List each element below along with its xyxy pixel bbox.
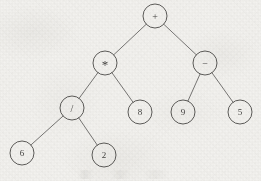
operand-label: 9	[181, 107, 186, 117]
operand-label: 6	[20, 148, 25, 158]
tree-edge	[212, 73, 233, 102]
tree-node-minus[interactable]: −	[193, 51, 217, 75]
tree-node-multiply[interactable]: *	[93, 51, 117, 75]
tree-node-2[interactable]: 2	[92, 143, 116, 167]
tree-node-9[interactable]: 9	[171, 100, 195, 124]
edge-layer	[31, 24, 233, 145]
figure-canvas: +*−/89562	[0, 0, 261, 181]
tree-node-plus[interactable]: +	[143, 4, 167, 28]
tree-edge	[112, 73, 133, 102]
tree-edge	[79, 118, 98, 145]
operand-label: 2	[102, 150, 107, 160]
node-layer: +*−/89562	[10, 4, 252, 167]
expression-tree: +*−/89562	[0, 0, 261, 181]
tree-node-8[interactable]: 8	[128, 100, 152, 124]
tree-edge	[79, 73, 98, 99]
slash-icon: /	[71, 103, 74, 114]
tree-node-5[interactable]: 5	[228, 100, 252, 124]
tree-edge	[164, 24, 197, 55]
operand-label: 8	[138, 107, 143, 117]
tree-edge	[31, 116, 63, 145]
plus-icon: +	[152, 11, 158, 22]
tree-node-6[interactable]: 6	[10, 141, 34, 165]
asterisk-icon: *	[102, 57, 109, 72]
operand-label: 5	[238, 107, 243, 117]
tree-edge	[114, 24, 147, 55]
tree-edge	[188, 74, 200, 101]
tree-node-divide[interactable]: /	[60, 96, 84, 120]
minus-icon: −	[202, 58, 208, 69]
